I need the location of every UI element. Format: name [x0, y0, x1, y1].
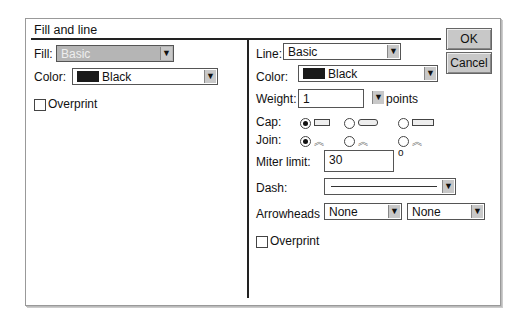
- cap-square-radio[interactable]: [398, 118, 409, 129]
- arrowhead-start-dropdown[interactable]: None ▼: [324, 203, 402, 220]
- degree-unit: o: [398, 147, 404, 158]
- arrowhead-start-value: None: [329, 205, 358, 219]
- color-swatch: [77, 71, 99, 82]
- join-round-radio[interactable]: [344, 136, 355, 147]
- line-overprint-checkbox[interactable]: [256, 236, 268, 248]
- miter-limit-input[interactable]: 30: [324, 150, 394, 172]
- dropdown-arrow-icon: ▼: [204, 70, 216, 83]
- join-miter-icon: ︽: [314, 133, 324, 148]
- dash-label: Dash:: [256, 181, 287, 195]
- cap-round-icon: [358, 119, 378, 126]
- arrowhead-end-value: None: [412, 205, 441, 219]
- fill-color-dropdown[interactable]: Black ▼: [72, 68, 218, 85]
- color-swatch: [303, 68, 325, 79]
- fill-overprint-checkbox[interactable]: [34, 99, 46, 111]
- fill-overprint-label: Overprint: [48, 97, 97, 111]
- join-label: Join:: [256, 133, 281, 147]
- cap-butt-radio[interactable]: [300, 118, 311, 129]
- cap-square-icon: [412, 119, 434, 126]
- join-miter-radio[interactable]: [300, 136, 311, 147]
- arrowheads-label: Arrowheads: [256, 207, 320, 221]
- fill-dropdown[interactable]: Basic ▼: [56, 45, 174, 62]
- cap-label: Cap:: [256, 115, 281, 129]
- dropdown-arrow-icon: ▼: [424, 67, 436, 80]
- join-round-icon: ︽: [358, 133, 368, 148]
- fill-label: Fill:: [34, 47, 53, 61]
- weight-dropdown[interactable]: ▼: [370, 90, 384, 107]
- dash-dropdown[interactable]: ▼: [324, 178, 456, 195]
- miter-limit-label: Miter limit:: [256, 155, 311, 169]
- join-bevel-radio[interactable]: [398, 136, 409, 147]
- cap-round-radio[interactable]: [344, 118, 355, 129]
- line-color-label: Color:: [256, 70, 288, 84]
- dash-line-preview: [331, 186, 437, 187]
- weight-label: Weight:: [256, 92, 296, 106]
- join-bevel-icon: ︽: [412, 133, 422, 148]
- fill-color-label: Color:: [34, 70, 66, 84]
- fill-and-line-dialog: Fill and line Fill: Basic ▼ Color: Black…: [25, 18, 501, 306]
- arrowhead-end-dropdown[interactable]: None ▼: [407, 203, 485, 220]
- cancel-button[interactable]: Cancel: [446, 52, 492, 74]
- dropdown-arrow-icon: ▼: [388, 205, 400, 218]
- line-dropdown[interactable]: Basic ▼: [283, 43, 401, 60]
- section-divider: [247, 39, 249, 298]
- cap-butt-icon: [314, 119, 330, 126]
- ok-button[interactable]: OK: [446, 28, 492, 50]
- line-color-value: Black: [328, 67, 357, 81]
- weight-input[interactable]: 1: [298, 89, 364, 108]
- line-value: Basic: [288, 45, 317, 59]
- fill-color-value: Black: [102, 70, 131, 84]
- title-divider: [31, 38, 441, 40]
- line-color-dropdown[interactable]: Black ▼: [298, 65, 438, 82]
- dropdown-arrow-icon: ▼: [442, 180, 454, 193]
- line-label: Line:: [256, 47, 282, 61]
- dropdown-arrow-icon: ▼: [372, 91, 384, 104]
- fill-value: Basic: [61, 47, 90, 61]
- dialog-title: Fill and line: [34, 23, 97, 37]
- dropdown-arrow-icon: ▼: [471, 205, 483, 218]
- line-overprint-label: Overprint: [270, 234, 319, 248]
- weight-unit: points: [386, 92, 418, 106]
- dropdown-arrow-icon: ▼: [387, 45, 399, 58]
- dropdown-arrow-icon: ▼: [160, 47, 172, 60]
